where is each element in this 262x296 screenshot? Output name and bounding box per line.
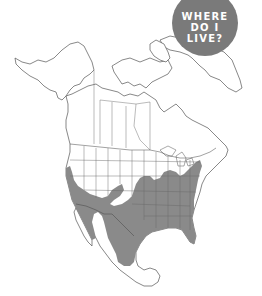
badge-line-1: WHERE [182,11,229,22]
badge-line-2: DO I [191,22,220,33]
badge-line-3: LIVE? [187,33,223,44]
arctic-islands [112,58,172,88]
